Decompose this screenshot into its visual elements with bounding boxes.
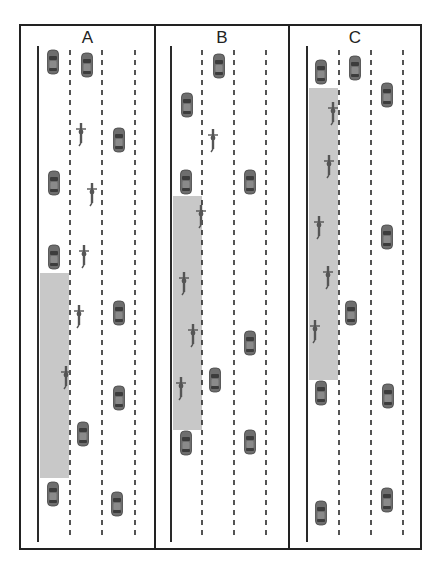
road-graphics bbox=[0, 0, 439, 566]
cycle-zone bbox=[173, 196, 202, 430]
car-icon bbox=[214, 54, 225, 78]
cyclist-icon bbox=[208, 129, 218, 152]
car-icon bbox=[210, 368, 221, 392]
car-icon bbox=[114, 128, 125, 152]
car-icon bbox=[382, 83, 393, 107]
car-icon bbox=[182, 93, 193, 117]
car-icon bbox=[316, 60, 327, 84]
road-diagram: ABC bbox=[0, 0, 439, 566]
car-icon bbox=[48, 50, 59, 74]
cycle-zone bbox=[309, 88, 338, 380]
cyclist-icon bbox=[87, 183, 97, 206]
car-icon bbox=[181, 170, 192, 194]
car-icon bbox=[114, 301, 125, 325]
car-icon bbox=[181, 431, 192, 455]
car-icon bbox=[82, 53, 93, 77]
car-icon bbox=[316, 501, 327, 525]
car-icon bbox=[350, 56, 361, 80]
car-icon bbox=[48, 482, 59, 506]
car-icon bbox=[112, 492, 123, 516]
car-icon bbox=[49, 171, 60, 195]
car-icon bbox=[245, 331, 256, 355]
car-icon bbox=[78, 422, 89, 446]
cyclist-icon bbox=[76, 123, 86, 146]
cyclist-icon bbox=[79, 245, 89, 268]
cyclist-icon bbox=[74, 305, 84, 328]
car-icon bbox=[114, 386, 125, 410]
car-icon bbox=[346, 301, 357, 325]
car-icon bbox=[382, 488, 393, 512]
car-icon bbox=[49, 245, 60, 269]
car-icon bbox=[245, 170, 256, 194]
car-icon bbox=[245, 430, 256, 454]
car-icon bbox=[316, 381, 327, 405]
car-icon bbox=[382, 225, 393, 249]
car-icon bbox=[383, 384, 394, 408]
